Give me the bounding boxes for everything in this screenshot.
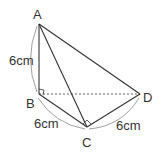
geometry-diagram: A B C D 6cm 6cm 6cm (0, 0, 164, 154)
measure-cd: 6cm (116, 118, 141, 133)
measure-ab: 6cm (9, 53, 34, 68)
label-c: C (82, 135, 91, 150)
label-a: A (33, 7, 42, 22)
segment-ad (39, 24, 140, 94)
segment-ac (39, 24, 87, 127)
label-b: B (26, 96, 35, 111)
measure-bc: 6cm (34, 116, 59, 131)
label-d: D (143, 90, 152, 105)
